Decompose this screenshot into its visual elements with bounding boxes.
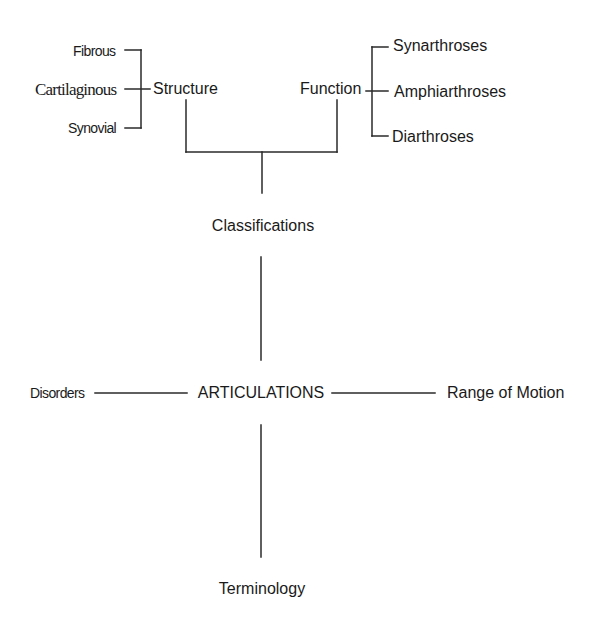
node-terminology: Terminology [219,581,305,597]
node-classifications: Classifications [212,218,314,234]
classification-join [186,100,337,193]
node-amphiarthroses: Amphiarthroses [394,84,506,100]
node-fibrous: Fibrous [73,44,115,58]
articulations-concept-map: Fibrous Cartilaginous Synovial Structure… [0,0,607,635]
node-diarthroses: Diarthroses [392,129,474,145]
node-synarthroses: Synarthroses [393,38,487,54]
node-structure: Structure [153,81,218,97]
structure-bracket [125,50,150,128]
node-function: Function [300,81,361,97]
node-synovial: Synovial [68,121,116,135]
node-articulations-root: ARTICULATIONS [198,385,325,401]
node-disorders: Disorders [30,386,85,400]
node-range-of-motion: Range of Motion [447,385,564,401]
node-cartilaginous: Cartilaginous [35,81,116,98]
function-bracket [366,47,388,136]
